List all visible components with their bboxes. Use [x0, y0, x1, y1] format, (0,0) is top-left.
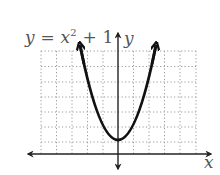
x-axis-label: x: [204, 152, 214, 172]
graph-figure: y = x2 + 1 y x: [0, 0, 220, 175]
y-axis-label: y: [124, 28, 134, 48]
equation-label: y = x2 + 1: [25, 27, 114, 47]
